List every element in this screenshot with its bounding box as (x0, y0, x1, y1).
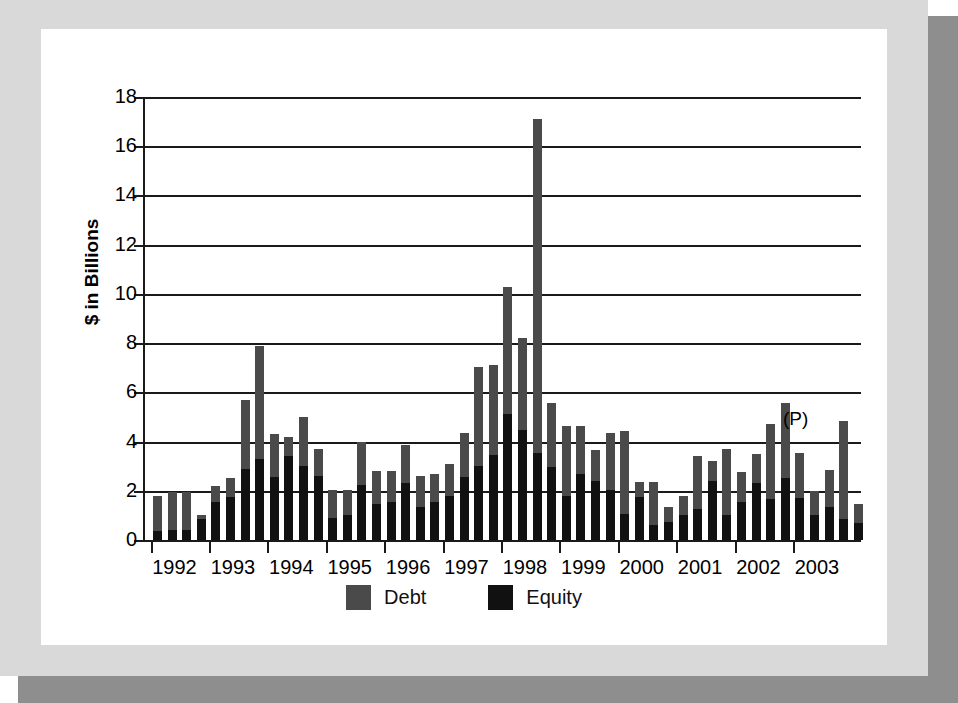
legend-swatch-equity (488, 585, 513, 610)
bar-segment-debt (343, 490, 352, 516)
bar-segment-debt (810, 491, 819, 516)
bar-segment-equity (343, 515, 352, 540)
bar (664, 507, 673, 540)
y-axis-tick-label: 12 (93, 233, 137, 256)
bar (314, 449, 323, 540)
bar-segment-equity (693, 509, 702, 540)
bar-segment-equity (737, 502, 746, 540)
bar (503, 287, 512, 540)
bar (460, 433, 469, 540)
bar (620, 431, 629, 541)
bar (197, 515, 206, 540)
bar-segment-equity (328, 518, 337, 540)
bar (430, 474, 439, 540)
bar (766, 424, 775, 540)
x-axis-tick (735, 540, 737, 553)
bar-segment-debt (284, 437, 293, 457)
bar-series-group (143, 97, 861, 540)
bar-segment-equity (547, 467, 556, 540)
bar-segment-equity (722, 515, 731, 540)
bar (533, 119, 542, 540)
bar-segment-equity (752, 483, 761, 540)
bar-segment-debt (314, 449, 323, 476)
bar-segment-debt (503, 287, 512, 415)
bar (255, 346, 264, 540)
legend-label-debt: Debt (384, 586, 426, 609)
y-axis-tick-label: 10 (93, 282, 137, 305)
bar-segment-debt (547, 403, 556, 467)
bar-segment-debt (299, 417, 308, 466)
bar-segment-debt (839, 421, 848, 519)
bar-segment-debt (649, 482, 658, 525)
bar (474, 367, 483, 541)
x-axis-tick (559, 540, 561, 553)
bar-segment-equity (226, 497, 235, 540)
bar-segment-debt (635, 482, 644, 497)
bar (343, 490, 352, 540)
bar-segment-equity (708, 481, 717, 540)
x-axis-tick (676, 540, 678, 553)
y-axis-tick-label: 2 (93, 479, 137, 502)
bar-segment-equity (182, 530, 191, 540)
y-axis-tick-label: 0 (93, 528, 137, 551)
bar-segment-debt (679, 496, 688, 516)
bar (357, 442, 366, 540)
bar-segment-debt (372, 471, 381, 504)
bar (241, 400, 250, 540)
bar-segment-debt (562, 426, 571, 496)
chart-card: $ in Billions 024681012141618 1992199319… (41, 29, 887, 645)
bar (489, 365, 498, 540)
y-axis-tick-label: 14 (93, 183, 137, 206)
bar (270, 434, 279, 540)
y-axis-tick-label: 8 (93, 331, 137, 354)
bar-segment-equity (401, 483, 410, 540)
bar-segment-equity (606, 490, 615, 540)
bar-segment-equity (387, 502, 396, 540)
bar-segment-debt (795, 453, 804, 499)
x-axis-tick (209, 540, 211, 553)
x-axis-tick (618, 540, 620, 553)
bar (226, 478, 235, 540)
bar-segment-debt (722, 449, 731, 515)
bar-segment-debt (328, 490, 337, 518)
bar-segment-equity (503, 414, 512, 540)
bar-segment-equity (766, 499, 775, 540)
bar-segment-debt (752, 454, 761, 484)
bar-segment-debt (576, 426, 585, 474)
bar (562, 426, 571, 540)
bar-segment-equity (839, 519, 848, 540)
bar-segment-debt (854, 504, 863, 522)
bar-segment-equity (314, 476, 323, 540)
bar-segment-equity (168, 530, 177, 540)
bar-segment-equity (372, 504, 381, 540)
bar-segment-debt (460, 433, 469, 477)
chart-screenshot: $ in Billions 024681012141618 1992199319… (0, 0, 958, 703)
bar-segment-debt (416, 476, 425, 507)
bar-segment-equity (460, 477, 469, 540)
bar (401, 445, 410, 540)
bar-segment-debt (401, 445, 410, 483)
bar-segment-equity (591, 481, 600, 540)
bar-segment-equity (357, 485, 366, 540)
bar (722, 449, 731, 540)
bar-segment-debt (708, 461, 717, 481)
bar-segment-debt (226, 478, 235, 496)
bar-segment-equity (284, 456, 293, 540)
bar-segment-debt (474, 367, 483, 467)
bar (182, 492, 191, 540)
bar-segment-debt (387, 471, 396, 502)
bar-segment-equity (430, 502, 439, 540)
bar-segment-equity (825, 507, 834, 540)
bar-segment-debt (270, 434, 279, 477)
bar-segment-debt (693, 456, 702, 509)
bar-segment-debt (606, 433, 615, 490)
bar-segment-debt (737, 472, 746, 502)
x-axis-tick (793, 540, 795, 553)
bar (211, 486, 220, 540)
bar-segment-equity (533, 453, 542, 540)
bar-segment-equity (781, 478, 790, 540)
bar-segment-equity (153, 531, 162, 540)
bar (372, 471, 381, 540)
bar-segment-debt (182, 492, 191, 530)
bar (810, 491, 819, 540)
